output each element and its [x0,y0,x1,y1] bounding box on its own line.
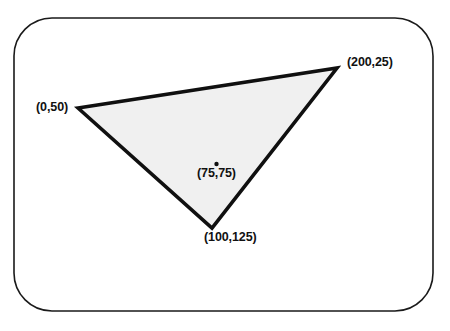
vertex-label-v2: (200,25) [347,56,393,69]
vertex-label-v3: (100,125) [204,231,257,244]
triangle-shape [78,68,337,228]
figure-container: (0,50) (200,25) (100,125) (75,75) [0,0,450,331]
centroid-label: (75,75) [197,167,236,180]
vertex-label-v1: (0,50) [36,101,68,114]
